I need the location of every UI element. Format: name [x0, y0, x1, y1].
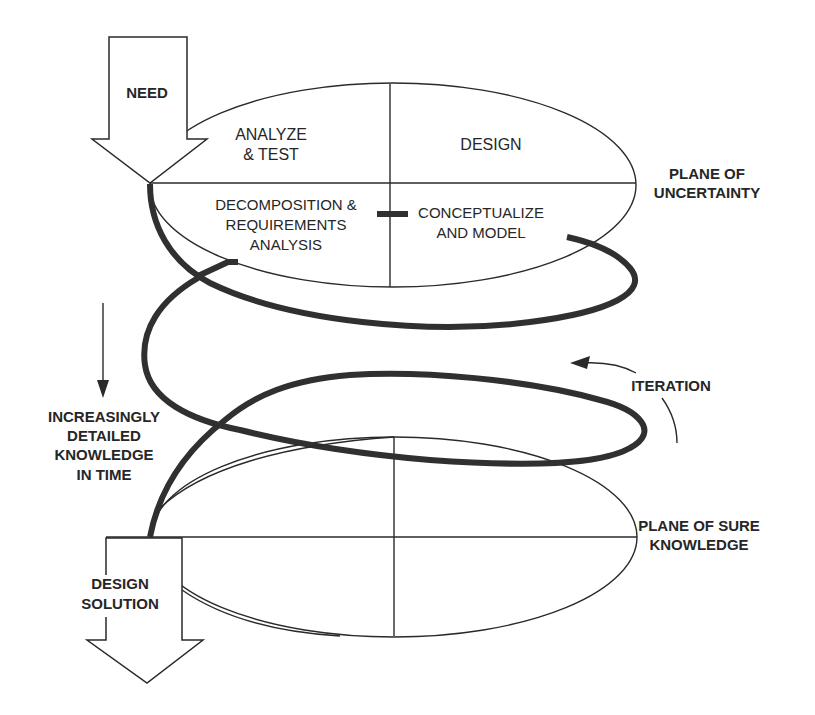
iteration-label: ITERATION — [631, 377, 711, 394]
spiral-crossbar — [198, 262, 238, 276]
time-axis-line3: KNOWLEDGE — [54, 446, 153, 463]
plane-of-sure-knowledge-line2: KNOWLEDGE — [649, 536, 748, 553]
need-label: NEED — [126, 84, 168, 101]
design-solution-arrow: DESIGN SOLUTION — [60, 538, 340, 683]
time-axis-line2: DETAILED — [67, 427, 141, 444]
design-solution-label-line1: DESIGN — [91, 575, 149, 592]
bottom-ellipse-front-arc — [182, 590, 340, 636]
plane-of-sure-knowledge-line1: PLANE OF SURE — [638, 517, 760, 534]
quadrant-conceptualize-line2: AND MODEL — [436, 224, 525, 241]
quadrant-analyze-test-line1: ANALYZE — [235, 126, 307, 143]
iteration-return-curve — [662, 398, 677, 443]
time-axis-line1: INCREASINGLY — [48, 408, 160, 425]
quadrant-analyze-test-line2: & TEST — [243, 146, 299, 163]
top-plane-ellipse — [150, 83, 636, 287]
time-axis: INCREASINGLY DETAILED KNOWLEDGE IN TIME — [48, 303, 160, 483]
design-solution-label-line2: SOLUTION — [81, 595, 159, 612]
input-arrow-shape — [92, 37, 207, 183]
time-axis-line4: IN TIME — [77, 466, 132, 483]
quadrant-decomposition-line2: REQUIREMENTS — [226, 216, 347, 233]
plane-of-uncertainty-line2: UNCERTAINTY — [654, 184, 760, 201]
top-plane — [150, 83, 636, 287]
quadrant-decomposition-line3: ANALYSIS — [250, 236, 322, 253]
quadrant-design-label: DESIGN — [460, 136, 521, 153]
need-arrow: NEED — [92, 37, 207, 183]
spiral-design-diagram: DESIGN SOLUTION NEED ANALYZE & TEST DESI… — [0, 0, 815, 715]
top-plane-quadrant-labels: ANALYZE & TEST DESIGN DECOMPOSITION & RE… — [215, 126, 544, 253]
iteration-arrow-head-icon — [570, 356, 590, 369]
time-arrow-head-icon — [97, 380, 109, 398]
iteration-arrow-curve — [582, 363, 636, 373]
quadrant-decomposition-line1: DECOMPOSITION & — [215, 196, 357, 213]
quadrant-conceptualize-line1: CONCEPTUALIZE — [418, 204, 544, 221]
plane-of-uncertainty-line1: PLANE OF — [669, 165, 745, 182]
bottom-plane — [106, 437, 637, 637]
